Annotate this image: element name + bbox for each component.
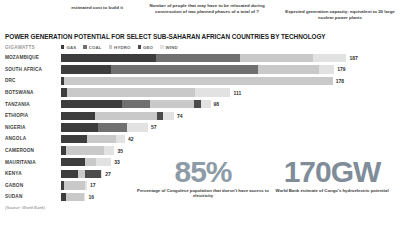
power-generation-chart: POWER GENERATION POTENTIAL FOR SELECT SU… [4, 33, 401, 233]
bar-value-label: 33 [114, 159, 120, 165]
bar-track: 57 [61, 123, 401, 131]
stat-caption: World Bank estimate of Congo's hydroelec… [262, 188, 402, 194]
bar-segment-geo [85, 170, 100, 178]
bar-segment-hydro [64, 181, 85, 189]
legend-label: GAS [66, 45, 76, 50]
bar-track: 111 [61, 88, 401, 96]
annotation-caption-cost: estimated cost to build it [44, 5, 150, 11]
stat-hydro-potential: 170GW World Bank estimate of Congo's hyd… [262, 158, 402, 193]
bar-category-label: ETHIOPIA [4, 113, 61, 118]
bar-category-label: MOZAMBIQUE [4, 55, 61, 60]
bar-value-label: 178 [336, 78, 344, 84]
bar-segment-hydro [240, 54, 313, 62]
bar-row[interactable]: TANZANIA98 [4, 98, 401, 110]
axis-unit-label: GIGAWATTS [4, 45, 61, 50]
bar-category-label: NIGERIA [4, 125, 61, 130]
bar-segment-hydro [85, 158, 96, 166]
bar-value-label: 57 [151, 124, 157, 130]
bar-value-label: 74 [177, 113, 183, 119]
bar-segment-coal [111, 65, 258, 73]
bar-value-label: 35 [117, 148, 123, 154]
bar-segment-geo [194, 100, 202, 108]
bar-segment-hydro [95, 112, 158, 120]
legend-item-gas[interactable]: GAS [61, 45, 76, 50]
bar-row[interactable]: ETHIOPIA74 [4, 110, 401, 122]
bar-row[interactable]: BOTSWANA111 [4, 87, 401, 99]
bar-segment-wind [101, 170, 103, 178]
bar-segment-wind [96, 158, 111, 166]
bar-segment-wind [163, 112, 174, 120]
legend-swatch-icon [160, 45, 163, 48]
stat-caption: Percentage of Congolese population that … [128, 188, 278, 200]
legend-swatch-icon [83, 45, 86, 48]
bar-value-label: 179 [337, 66, 345, 72]
bar-segment-hydro [64, 77, 333, 85]
bar-value-label: 111 [233, 90, 241, 96]
bar-value-label: 27 [105, 171, 111, 177]
bar-segment-wind [116, 135, 125, 143]
bar-segment-gas [61, 112, 95, 120]
bar-segment-gas [61, 65, 111, 73]
bar-segment-wind [104, 146, 115, 154]
stat-electricity-access: 85% Percentage of Congolese population t… [128, 158, 278, 199]
bar-segment-coal [156, 54, 240, 62]
bar-value-label: 187 [349, 55, 357, 61]
bar-track: 74 [61, 112, 401, 120]
legend-swatch-icon [109, 45, 112, 48]
bar-segment-hydro [78, 170, 86, 178]
bar-category-label: KENYA [4, 171, 61, 176]
bar-track: 35 [61, 146, 401, 154]
bar-segment-coal [122, 100, 149, 108]
bar-row[interactable]: SOUTH AFRICA179 [4, 64, 401, 76]
bar-segment-hydro [66, 146, 104, 154]
legend-item-geo[interactable]: GEO [138, 45, 154, 50]
bar-track: 187 [61, 54, 401, 62]
legend-label: COAL [89, 45, 102, 50]
legend-label: HYDRO [114, 45, 131, 50]
bar-segment-gas [61, 100, 122, 108]
bar-category-label: MAURITANIA [4, 160, 61, 165]
bar-value-label: 98 [214, 101, 220, 107]
bar-segment-wind [319, 65, 334, 73]
bar-category-label: CAMEROON [4, 148, 61, 153]
bar-value-label: 17 [90, 182, 96, 188]
bar-category-label: DRC [4, 78, 61, 83]
legend-item-wind[interactable]: WIND [160, 45, 178, 50]
legend-swatch-icon [138, 45, 141, 48]
bar-track: 179 [61, 65, 401, 73]
bar-track: 42 [61, 135, 401, 143]
bar-value-label: 16 [88, 194, 94, 200]
bar-category-label: ANGOLA [4, 136, 61, 141]
annotation-caption-relocation: Number of people that may have to be rel… [148, 3, 266, 15]
legend-item-hydro[interactable]: HYDRO [109, 45, 131, 50]
bar-value-label: 42 [128, 136, 134, 142]
bar-segment-gas [61, 123, 98, 131]
bar-segment-hydro [66, 193, 84, 201]
bar-category-label: SOUTH AFRICA [4, 67, 61, 72]
bar-category-label: GABON [4, 183, 61, 188]
bar-segment-gas [61, 135, 87, 143]
bar-segment-hydro [150, 100, 194, 108]
chart-title: POWER GENERATION POTENTIAL FOR SELECT SU… [5, 33, 401, 40]
bar-row[interactable]: MOZAMBIQUE187 [4, 52, 401, 64]
bar-category-label: TANZANIA [4, 102, 61, 107]
bar-segment-gas [61, 170, 78, 178]
bar-segment-gas [61, 158, 85, 166]
bar-segment-wind [84, 193, 86, 201]
chart-source: (Source: World Bank) [4, 205, 401, 210]
bar-row[interactable]: NIGERIA57 [4, 122, 401, 134]
bar-segment-wind [313, 54, 347, 62]
bar-segment-wind [201, 100, 210, 108]
bar-segment-wind [85, 181, 87, 189]
legend-item-coal[interactable]: COAL [83, 45, 101, 50]
bar-segment-wind [195, 88, 230, 96]
bar-segment-hydro [67, 88, 195, 96]
bar-segment-coal [98, 123, 127, 131]
bar-row[interactable]: DRC178 [4, 75, 401, 87]
bar-track: 178 [61, 77, 401, 85]
bar-row[interactable]: ANGOLA42 [4, 133, 401, 145]
bar-segment-wind [127, 123, 148, 131]
stat-value: 85% [128, 158, 278, 186]
bar-category-label: BOTSWANA [4, 90, 61, 95]
chart-legend: GIGAWATTS GASCOALHYDROGEOWIND [4, 43, 401, 51]
